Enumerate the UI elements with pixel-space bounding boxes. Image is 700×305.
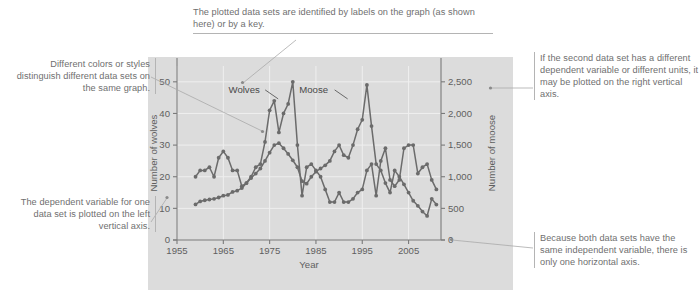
series-point-wolves (231, 169, 235, 173)
series-point-moose (300, 179, 304, 183)
series-point-wolves (323, 187, 327, 191)
series-point-wolves (346, 200, 350, 204)
series-point-wolves (421, 165, 425, 169)
series-point-wolves (365, 169, 369, 173)
y-axis-tick-label: 40 (159, 108, 170, 119)
series-point-moose (258, 167, 262, 171)
y2-axis-tick-label: 0 (448, 234, 453, 245)
series-point-wolves (333, 200, 337, 204)
series-point-moose (245, 181, 249, 185)
series-point-wolves (208, 165, 212, 169)
series-point-moose (226, 193, 230, 197)
x-axis-tick-label: 1995 (352, 245, 373, 256)
series-point-wolves (296, 143, 300, 147)
series-annotation-hook (335, 90, 348, 99)
series-point-moose (360, 118, 364, 122)
series-annotation-wolves: Wolves (229, 84, 260, 95)
callout-right-vertical-axis: If the second data set has a different d… (534, 52, 700, 100)
series-point-wolves (360, 187, 364, 191)
x-axis-tick-label: 1985 (305, 245, 326, 256)
series-point-wolves (319, 175, 323, 179)
series-point-wolves (212, 175, 216, 179)
series-point-moose (272, 143, 276, 147)
series-point-moose (379, 169, 383, 173)
series-point-moose (388, 191, 392, 195)
y-axis-tick-label: 0 (165, 234, 170, 245)
x-axis-tick-label: 1955 (166, 245, 187, 256)
series-point-moose (198, 200, 202, 204)
series-point-moose (296, 165, 300, 169)
series-point-moose (282, 146, 286, 150)
series-point-wolves (217, 156, 221, 160)
series-point-moose (217, 196, 221, 200)
series-point-wolves (194, 175, 198, 179)
figure-root: 0102030405005001,0001,5002,0002,50019551… (0, 0, 700, 305)
series-point-wolves (226, 156, 230, 160)
series-point-moose (434, 203, 438, 207)
series-point-moose (342, 153, 346, 157)
series-point-wolves (305, 165, 309, 169)
series-point-moose (416, 204, 420, 208)
series-point-wolves (370, 162, 374, 166)
series-point-moose (328, 159, 332, 163)
callout-horizontal-axis: Because both data sets have the same ind… (534, 232, 700, 268)
series-point-moose (421, 210, 425, 214)
series-annotation-moose: Moose (299, 84, 328, 95)
series-point-moose (356, 127, 360, 131)
series-point-wolves (277, 131, 281, 135)
series-point-wolves (416, 172, 420, 176)
series-point-wolves (203, 169, 207, 173)
series-point-wolves (198, 169, 202, 173)
series-point-wolves (342, 200, 346, 204)
series-point-wolves (379, 159, 383, 163)
series-point-moose (235, 189, 239, 193)
callout-colors-styles: Different colors or styles distinguish d… (12, 58, 156, 94)
series-point-wolves (235, 169, 239, 173)
series-point-moose (249, 176, 253, 180)
series-point-wolves (374, 194, 378, 198)
series-point-moose (194, 202, 198, 206)
y-axis-tick-label: 30 (159, 139, 170, 150)
x-axis-tick-label: 1975 (259, 245, 280, 256)
series-point-moose (397, 175, 401, 179)
y2-axis-title: Number of moose (486, 115, 497, 191)
series-point-wolves (393, 184, 397, 188)
series-point-wolves (356, 191, 360, 195)
series-point-moose (319, 167, 323, 171)
series-point-wolves (407, 143, 411, 147)
series-point-moose (286, 152, 290, 156)
series-point-wolves (286, 102, 290, 106)
callout-left-vertical-axis: The dependent variable for one data set … (12, 196, 156, 232)
y-axis-title: Number of wolves (148, 114, 159, 191)
series-point-wolves (384, 146, 388, 150)
y2-axis-tick-label: 2,500 (448, 76, 472, 87)
series-point-wolves (221, 150, 225, 154)
series-point-wolves (430, 178, 434, 182)
y-axis-tick-label: 10 (159, 203, 170, 214)
series-point-wolves (434, 187, 438, 191)
x-axis-tick-label: 2005 (398, 245, 419, 256)
series-point-moose (221, 194, 225, 198)
series-point-wolves (254, 165, 258, 169)
series-point-moose (407, 191, 411, 195)
series-point-wolves (272, 99, 276, 103)
series-point-wolves (263, 140, 267, 144)
series-point-moose (291, 158, 295, 162)
series-point-moose (365, 83, 369, 87)
series-point-wolves (282, 112, 286, 116)
x-axis-tick-label: 1965 (213, 245, 234, 256)
series-point-moose (374, 162, 378, 166)
series-point-moose (203, 198, 207, 202)
series-point-moose (333, 150, 337, 154)
series-point-wolves (291, 80, 295, 84)
series-annotation-hook (265, 90, 278, 99)
series-point-moose (268, 151, 272, 155)
series-point-moose (254, 172, 258, 176)
series-point-moose (305, 182, 309, 186)
y2-axis-tick-label: 2,000 (448, 108, 472, 119)
series-point-moose (323, 163, 327, 167)
y-axis-tick-label: 20 (159, 171, 170, 182)
series-point-moose (384, 181, 388, 185)
series-point-moose (425, 214, 429, 218)
series-point-wolves (425, 162, 429, 166)
